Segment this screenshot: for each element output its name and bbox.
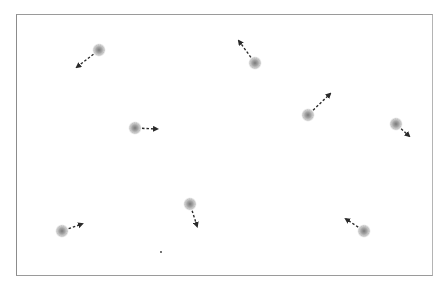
particle xyxy=(55,224,82,238)
particle xyxy=(183,197,197,226)
particles-group xyxy=(55,41,409,253)
velocity-arrow-icon xyxy=(346,219,358,227)
particle xyxy=(128,121,157,135)
velocity-arrow-icon xyxy=(69,224,82,229)
velocity-arrow-icon xyxy=(77,54,93,67)
particle xyxy=(239,41,262,70)
stray-dot xyxy=(160,251,162,253)
velocity-arrow-icon xyxy=(142,128,157,129)
particle-layer xyxy=(0,0,445,288)
velocity-arrow-icon xyxy=(401,129,409,136)
simulation-canvas xyxy=(0,0,445,288)
velocity-arrow-icon xyxy=(313,94,330,110)
particle xyxy=(346,219,371,238)
particle xyxy=(389,117,409,136)
velocity-arrow-icon xyxy=(192,211,197,226)
particle xyxy=(301,94,330,122)
velocity-arrow-icon xyxy=(239,41,251,57)
particle xyxy=(77,43,106,67)
